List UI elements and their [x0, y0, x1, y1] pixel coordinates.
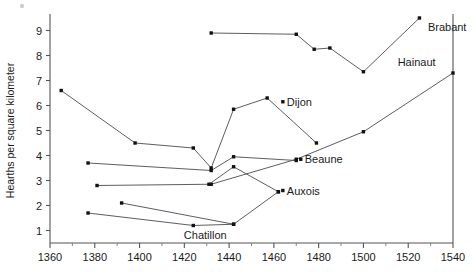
data-point-marker	[328, 46, 331, 49]
axis-titles: Hearths per square kilometer	[4, 62, 16, 198]
x-axis-tick-label: 1460	[262, 251, 286, 263]
x-axis-tick-label: 1420	[172, 251, 196, 263]
y-axis-tick-label: 2	[36, 200, 42, 212]
y-axis-tick-label: 8	[36, 50, 42, 62]
x-axis-tick-label: 1440	[217, 251, 241, 263]
y-axis-tick-label: 4	[36, 150, 42, 162]
x-axis-tick-label: 1520	[396, 251, 420, 263]
series-label-hainaut: Hainaut	[398, 56, 436, 68]
data-point-marker	[120, 201, 123, 204]
data-point-marker	[210, 169, 213, 172]
x-axis-tick-label: 1480	[306, 251, 330, 263]
data-point-marker	[312, 48, 315, 51]
y-axis-tick-label: 6	[36, 100, 42, 112]
y-axis-title: Hearths per square kilometer	[4, 62, 16, 198]
data-point-marker	[265, 96, 268, 99]
data-point-marker	[295, 33, 298, 36]
chart-background	[0, 0, 473, 274]
data-point-marker	[210, 31, 213, 34]
x-axis-tick-label: 1500	[351, 251, 375, 263]
series-label-auxois: Auxois	[287, 185, 321, 197]
line-chart: 1234567891360138014001420144014601480150…	[0, 0, 473, 274]
x-axis-tick-label: 1540	[441, 251, 465, 263]
data-point-marker	[192, 146, 195, 149]
data-point-marker	[362, 70, 365, 73]
data-point-marker	[86, 161, 89, 164]
data-point-marker	[59, 89, 62, 92]
data-point-marker	[232, 155, 235, 158]
data-point-marker	[418, 16, 421, 19]
series-label-dot	[281, 100, 284, 103]
y-axis-tick-label: 7	[36, 75, 42, 87]
series-label-dot	[281, 189, 284, 192]
y-axis-tick-label: 3	[36, 175, 42, 187]
data-point-marker	[277, 190, 280, 193]
data-point-marker	[362, 130, 365, 133]
data-point-marker	[95, 184, 98, 187]
corner-speck-artifact	[20, 4, 24, 8]
data-point-marker	[232, 165, 235, 168]
data-point-marker	[295, 159, 298, 162]
y-axis-tick-label: 5	[36, 125, 42, 137]
series-label-dijon: Dijon	[287, 96, 312, 108]
y-axis-tick-label: 1	[36, 225, 42, 237]
data-point-marker	[232, 223, 235, 226]
series-label-dot	[299, 158, 302, 161]
x-axis-tick-label: 1400	[127, 251, 151, 263]
series-label-beaune: Beaune	[305, 153, 343, 165]
data-point-marker	[232, 108, 235, 111]
data-point-marker	[192, 224, 195, 227]
data-point-marker	[86, 211, 89, 214]
chart-container: 1234567891360138014001420144014601480150…	[0, 0, 473, 274]
y-axis-tick-label: 9	[36, 25, 42, 37]
data-point-marker	[207, 183, 210, 186]
series-label-brabant: Brabant	[428, 21, 467, 33]
series-label-chatillon: Chatillon	[184, 229, 227, 241]
data-point-marker	[133, 141, 136, 144]
data-point-marker	[451, 71, 454, 74]
x-axis-tick-label: 1360	[38, 251, 62, 263]
data-point-marker	[315, 141, 318, 144]
x-axis-tick-label: 1380	[83, 251, 107, 263]
